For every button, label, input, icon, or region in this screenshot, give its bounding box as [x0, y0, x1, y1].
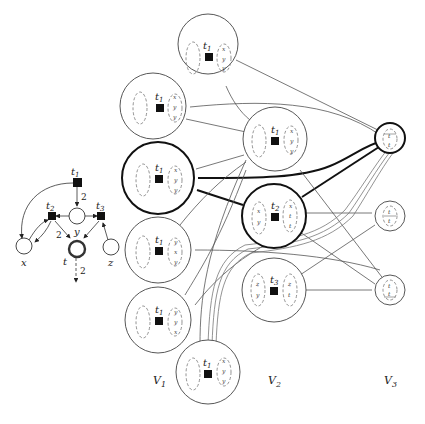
svg-text:y: y — [173, 186, 178, 194]
column-label-v1: V1 — [153, 374, 166, 389]
v1-node-3-highlighted[interactable]: t1 x y y — [122, 142, 194, 214]
edge — [186, 119, 246, 132]
svg-text:y: y — [221, 367, 226, 375]
edge — [196, 155, 244, 169]
place-y — [69, 208, 85, 224]
diagram-canvas: t1 t2 t3 2 2 2 y x t z — [0, 0, 425, 424]
label-y: y — [73, 226, 80, 237]
svg-text:y: y — [221, 55, 226, 63]
v1-node-4[interactable]: t1 y x y — [125, 217, 191, 283]
petri-net: t1 t2 t3 2 2 2 y x t z — [16, 166, 119, 282]
v3-node-3[interactable]: t t — [375, 275, 405, 305]
svg-text:y: y — [173, 258, 178, 266]
edge-double — [208, 150, 387, 345]
transition-t1 — [73, 178, 82, 187]
v1-node-1[interactable]: t1 x y y — [178, 14, 238, 74]
v3-node-1-highlighted[interactable]: t t — [375, 123, 405, 153]
arc-x-t2 — [29, 220, 48, 240]
arc-z-t3 — [103, 223, 108, 240]
label-t1: t1 — [71, 166, 80, 179]
svg-text:y: y — [172, 113, 177, 121]
edge — [300, 225, 375, 275]
column-label-v3: V3 — [384, 374, 397, 389]
v2-column: t1 x y y t2 x y x t t t3 z y z t — [242, 107, 307, 322]
svg-text:y: y — [255, 291, 260, 299]
v1-node-6[interactable]: t1 x y y — [176, 340, 240, 404]
column-label-v2: V2 — [268, 374, 281, 389]
svg-text:y: y — [289, 137, 294, 145]
edge — [300, 170, 388, 285]
svg-text:y: y — [172, 103, 177, 111]
svg-text:y: y — [173, 176, 178, 184]
place-x — [16, 238, 32, 254]
label-z: z — [107, 257, 114, 268]
svg-text:y: y — [256, 218, 261, 226]
label-t2: t2 — [46, 200, 55, 213]
v2-node-t1[interactable]: t1 x y y — [243, 107, 307, 171]
arc-t3-t — [84, 221, 99, 238]
transition-t3 — [97, 212, 105, 220]
label-t3: t3 — [96, 200, 105, 213]
edge — [300, 232, 375, 284]
svg-text:y: y — [173, 318, 178, 326]
place-z — [103, 239, 119, 255]
weight-t1-y: 2 — [81, 192, 87, 202]
place-t — [69, 241, 85, 257]
transition-t2 — [48, 212, 56, 220]
svg-text:y: y — [221, 64, 226, 72]
svg-text:y: y — [289, 147, 294, 155]
weight-t-out: 2 — [80, 266, 86, 276]
v2-node-t2-highlighted[interactable]: t2 x y x t t — [242, 184, 306, 248]
v3-column: t t t t t t — [375, 123, 405, 305]
edge — [226, 86, 250, 120]
weight-t2-t: 2 — [56, 230, 62, 240]
arc-t2-x — [35, 221, 51, 242]
label-x: x — [21, 257, 27, 268]
svg-text:y: y — [173, 238, 178, 246]
edge-double — [216, 153, 393, 345]
v1-column: t1 x y y t1 x y y t1 x y y — [120, 14, 240, 404]
label-t: t — [63, 256, 68, 267]
v3-node-2[interactable]: t t — [375, 201, 405, 231]
svg-text:y: y — [173, 308, 178, 316]
v2-node-t3[interactable]: t3 z y z t — [242, 258, 306, 322]
v1-node-2[interactable]: t1 x y y — [120, 73, 186, 139]
edge — [185, 170, 246, 295]
v1-node-5[interactable]: t1 y y x — [125, 287, 191, 353]
svg-text:y: y — [221, 377, 226, 385]
